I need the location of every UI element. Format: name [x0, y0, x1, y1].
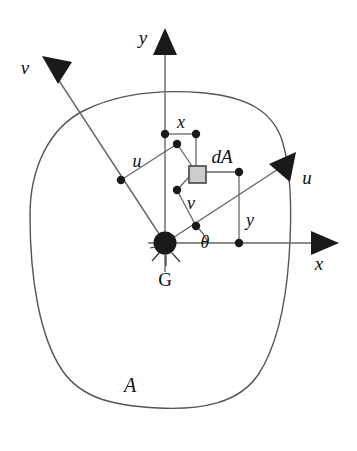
figure-canvas: y x u v x y u v θ dA A G	[0, 0, 357, 451]
element-dA-label: dA	[211, 146, 233, 167]
axis-x-arrowhead-icon	[311, 231, 339, 255]
dim-y-label: y	[244, 210, 254, 230]
area-moment-diagram: y x u v x y u v θ dA A G	[0, 0, 357, 451]
dim-u-label: u	[133, 151, 142, 171]
element-dA-square	[189, 166, 206, 183]
dim-v-label: v	[187, 193, 195, 213]
centroid-marker	[154, 232, 177, 255]
node-u-dim-upper	[173, 140, 181, 148]
angle-theta-label: θ	[201, 232, 210, 252]
node-y-dim-top	[235, 168, 243, 176]
area-A-label: A	[122, 374, 137, 396]
dim-x-label: x	[176, 112, 185, 132]
node-x-dim-left	[161, 130, 169, 138]
node-x-dim-right	[192, 130, 200, 138]
node-v-dim-foot	[192, 222, 200, 230]
axis-y-arrowhead-icon	[153, 28, 177, 55]
node-y-dim-bottom	[235, 239, 243, 247]
axis-u-line	[165, 164, 286, 243]
dim-u-line	[121, 144, 177, 180]
centroid-G-label: G	[158, 269, 172, 290]
axis-v-label: v	[21, 57, 30, 78]
axis-v-line	[56, 76, 165, 243]
node-v-dim-lower	[173, 186, 181, 194]
axis-u-arrowhead-icon	[269, 152, 296, 182]
node-u-dim-lower	[117, 176, 125, 184]
axis-u-label: u	[302, 167, 312, 188]
axis-v-arrowhead-icon	[42, 56, 72, 84]
axis-x-label: x	[314, 253, 324, 274]
axis-y-label: y	[137, 27, 148, 48]
